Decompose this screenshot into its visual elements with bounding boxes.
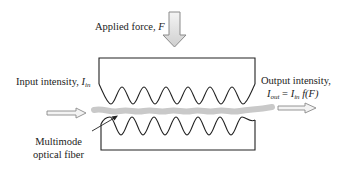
applied-force-label: Applied force, F [95,21,165,33]
top-corrugation [99,84,255,104]
input-intensity-label: Input intensity, Iin [16,76,90,91]
input-arrow-icon [47,108,86,118]
output-arrow-icon [278,103,316,113]
top-deformer-plate [99,58,255,104]
bottom-deformer-plate [101,117,255,150]
force-variable: F [158,21,164,32]
output-intensity-equation: Iout = Iin f(F) [267,88,319,103]
applied-force-text: Applied force, [95,21,158,32]
output-intensity-text: Output intensity, [261,75,331,86]
force-arrow-icon [163,12,186,47]
optical-fiber [94,107,272,112]
bottom-corrugation [101,117,255,135]
fiber-label-line2: optical fiber [33,148,84,161]
output-intensity-label: Output intensity, [261,75,331,87]
fiber-label-line1: Multimode [33,135,84,148]
input-intensity-subscript: in [85,81,90,89]
eq-function: f(F) [300,88,319,99]
eq-equals: = [279,88,290,99]
fiber-label: Multimode optical fiber [33,135,84,161]
input-intensity-text: Input intensity, [16,76,82,87]
